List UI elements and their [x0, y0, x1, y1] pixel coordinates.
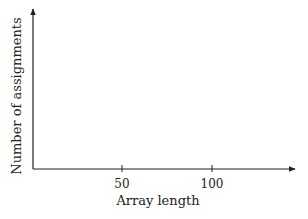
chart-canvas	[0, 0, 308, 219]
y-axis-label: Number of assignments	[9, 17, 24, 174]
x-axis-label: Array length	[116, 193, 199, 208]
x-tick-label-100: 100	[201, 177, 224, 191]
x-tick-label-50: 50	[114, 177, 129, 191]
